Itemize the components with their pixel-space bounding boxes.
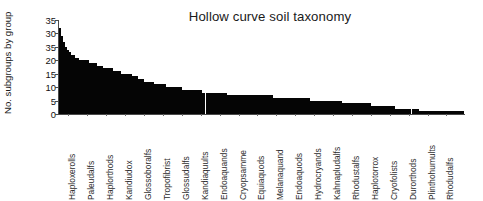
x-tick-label: Cryopsamme	[236, 116, 250, 200]
y-tick-label: 35	[34, 42, 56, 51]
x-tick-mark	[446, 114, 447, 116]
y-tick-label: 30	[34, 29, 56, 38]
bar-group-separator	[411, 107, 412, 114]
y-tick-label: 5	[34, 96, 56, 105]
x-tick-mark	[371, 114, 372, 116]
x-tick-label: Kahnapludalfs	[330, 116, 344, 200]
x-tick-mark	[409, 114, 410, 116]
x-tick-label: Glossudalfs	[179, 116, 193, 200]
x-tick-mark	[390, 114, 391, 116]
y-axis-tick-labels: 35303520151050	[34, 20, 56, 115]
plot-area	[58, 20, 465, 115]
x-tick-label: Rhodudalfs	[443, 116, 457, 200]
x-tick-label: Durorthods	[406, 116, 420, 200]
x-tick-mark	[125, 114, 126, 116]
x-axis-tick-labels: HaploxerollsPaleudalfsHaplorthodsKandiud…	[58, 116, 468, 201]
x-tick-label: Haplorthods	[103, 116, 117, 200]
y-tick-label: 10	[34, 83, 56, 92]
x-tick-mark	[333, 114, 334, 116]
y-tick-mark	[55, 74, 59, 75]
x-tick-mark	[257, 114, 258, 116]
x-tick-mark	[144, 114, 145, 116]
y-tick-mark	[55, 20, 59, 21]
bar	[462, 111, 464, 114]
x-tick-mark	[106, 114, 107, 116]
x-tick-label: Rhodustalfs	[349, 116, 363, 200]
x-tick-label: Kandiudox	[122, 116, 136, 200]
x-tick-mark	[68, 114, 69, 116]
x-tick-label: Hydrocryands	[311, 116, 325, 200]
x-tick-mark	[239, 114, 240, 116]
y-tick-mark	[55, 87, 59, 88]
y-tick-label: 15	[34, 69, 56, 78]
x-tick-label: Tropofibrist	[160, 116, 174, 200]
x-tick-label: Equiaquods	[254, 116, 268, 200]
x-tick-mark	[87, 114, 88, 116]
x-tick-mark	[182, 114, 183, 116]
x-tick-mark	[428, 114, 429, 116]
x-tick-label: Endoaquands	[217, 116, 231, 200]
bar-group-separator	[205, 91, 206, 114]
x-tick-label: Cryofolists	[387, 116, 401, 200]
x-tick-label: Kandiaquults	[198, 116, 212, 200]
x-tick-label: Paleudalfs	[84, 116, 98, 200]
x-tick-mark	[276, 114, 277, 116]
y-tick-label: 35	[34, 16, 56, 25]
x-tick-mark	[352, 114, 353, 116]
y-tick-mark	[55, 101, 59, 102]
x-tick-label: Haploxerolls	[65, 116, 79, 200]
y-tick-label: 20	[34, 56, 56, 65]
y-tick-mark	[55, 114, 59, 115]
y-tick-mark	[55, 60, 59, 61]
x-tick-mark	[220, 114, 221, 116]
x-tick-label: Glossoboralfs	[141, 116, 155, 200]
bar-series	[58, 20, 465, 115]
y-tick-label: 0	[34, 110, 56, 119]
chart-figure: Hollow curve soil taxonomy No. subgroups…	[0, 0, 483, 201]
y-tick-mark	[55, 47, 59, 48]
x-tick-mark	[295, 114, 296, 116]
y-tick-mark	[55, 33, 59, 34]
x-tick-label: Plinthohumults	[425, 116, 439, 200]
x-tick-label: Endoaquods	[292, 116, 306, 200]
x-tick-mark	[201, 114, 202, 116]
x-tick-mark	[163, 114, 164, 116]
x-tick-label: Haplotorrox	[368, 116, 382, 200]
x-tick-label: Melanaquand	[273, 116, 287, 200]
x-tick-mark	[314, 114, 315, 116]
y-axis-title: No. subgroups by group	[0, 13, 16, 114]
